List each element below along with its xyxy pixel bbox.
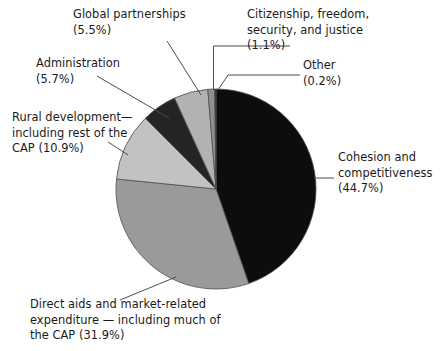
pie-label-direct-aids: Direct aids and market-related expenditu… — [30, 297, 245, 344]
pie-label-cohesion: Cohesion and competitiveness (44.7%) — [338, 150, 438, 197]
pie-label-global-partnerships: Global partnerships (5.5%) — [73, 7, 233, 38]
pie-label-other: Other (0.2%) — [303, 58, 413, 89]
pie-chart-figure: Citizenship, freedom, security, and just… — [0, 0, 440, 351]
pie-label-citizenship: Citizenship, freedom, security, and just… — [247, 7, 397, 54]
pie-label-rural-development: Rural development— including rest of the… — [12, 110, 152, 157]
pie-label-administration: Administration (5.7%) — [36, 56, 186, 87]
leader-line-other — [218, 75, 300, 90]
